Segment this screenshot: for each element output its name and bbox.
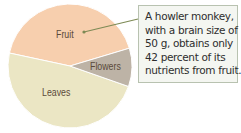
callout-line: 50 g, obtains only: [145, 37, 237, 51]
slice-label-fruit: Fruit: [56, 29, 74, 40]
callout-line: A howler monkey,: [145, 10, 237, 24]
slice-label-leaves: Leaves: [42, 87, 70, 98]
callout-leader-dot: [82, 30, 85, 33]
callout-line: with a brain size of: [145, 24, 237, 38]
callout-line: nutrients from fruit.: [145, 64, 237, 78]
callout-box: A howler monkey, with a brain size of 50…: [138, 5, 238, 83]
callout-line: 42 percent of its: [145, 51, 237, 65]
slice-label-flowers: Flowers: [90, 61, 121, 72]
